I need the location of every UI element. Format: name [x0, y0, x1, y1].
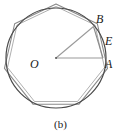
label-center-o: O: [30, 58, 39, 70]
radius-ob-line: [56, 27, 94, 59]
figure-caption: (b): [0, 118, 121, 130]
center-point-marker: [55, 57, 57, 59]
label-point-a: A: [105, 58, 112, 70]
label-point-b: B: [96, 13, 103, 25]
label-point-e: E: [105, 35, 112, 47]
circumscribed-polygon: [4, 4, 107, 104]
geometry-figure: O A B E (b): [0, 0, 121, 135]
